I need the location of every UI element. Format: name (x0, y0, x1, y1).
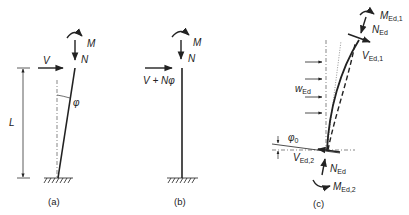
fixed-support-hatching (167, 178, 198, 183)
tilted-base-line (272, 144, 340, 153)
second-order-deflection (328, 44, 355, 150)
caption-a: (a) (48, 196, 60, 207)
length-label: L (9, 117, 15, 128)
axial-label: N (188, 53, 196, 64)
fixed-support-hatching (44, 178, 73, 183)
length-dimension (17, 68, 30, 178)
moment-arrow (172, 31, 189, 37)
base-moment-arrow (313, 180, 330, 187)
column-diagram-figure: φ L V N M (a) (0, 0, 409, 215)
top-shear-label: VEd,1 (362, 50, 383, 62)
equivalent-shear-label: V + Nφ (143, 75, 175, 86)
base-shear-label: VEd,2 (293, 152, 314, 164)
moment-arrow (67, 32, 82, 38)
axial-label: N (81, 54, 89, 65)
panel-c: φ0 wEd VEd,1 NEd MEd,1 VEd,2 NEd MEd,2 (… (272, 10, 403, 209)
imperfection-angle-label: φ0 (288, 132, 299, 144)
distributed-load-label: wEd (295, 83, 311, 95)
top-axial-label: NEd (372, 24, 388, 36)
top-moment-arrow (360, 11, 374, 15)
top-moment-label: MEd,1 (380, 10, 403, 22)
base-axial-arrow (322, 159, 325, 175)
caption-c: (c) (313, 198, 324, 209)
panel-b: V + Nφ N M (b) (143, 31, 202, 207)
moment-label: M (193, 37, 202, 48)
caption-b: (b) (174, 196, 186, 207)
angle-arc (57, 95, 70, 98)
moment-label: M (87, 38, 96, 49)
shear-label: V (43, 55, 51, 66)
top-axial-arrow (361, 17, 366, 33)
angle-label: φ (73, 97, 80, 108)
panel-a: φ L V N M (a) (9, 32, 96, 207)
inclined-column (58, 68, 75, 178)
base-moment-label: MEd,2 (333, 181, 356, 193)
base-axial-label: NEd (330, 163, 346, 175)
